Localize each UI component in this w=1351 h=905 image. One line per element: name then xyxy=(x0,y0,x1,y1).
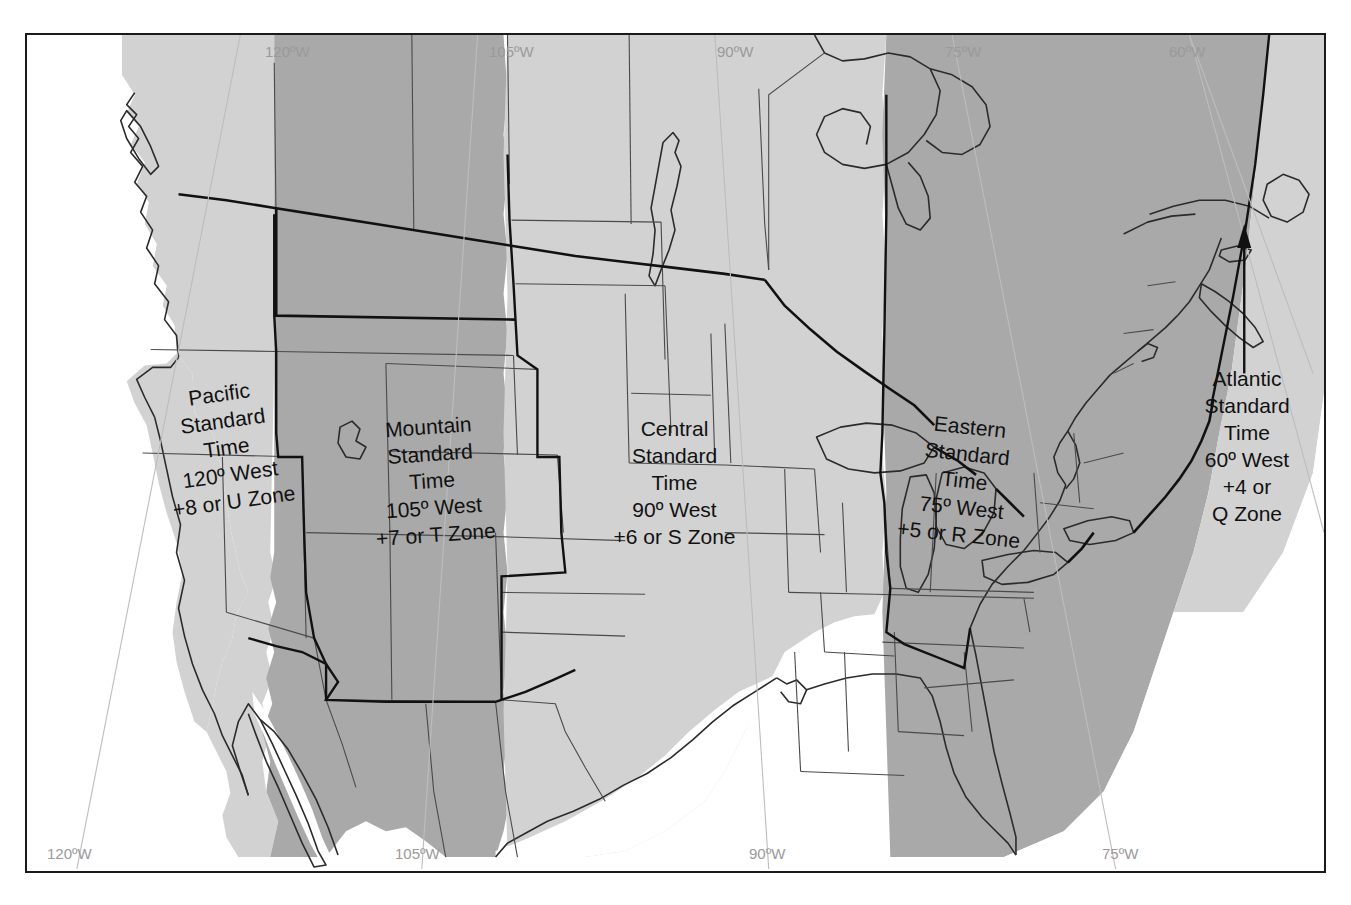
map-frame: Pacific Standard Time 120º West +8 or U … xyxy=(25,33,1326,873)
meridian-label-top-60w: 60ºW xyxy=(1169,43,1205,60)
meridian-label-top-105w: 105ºW xyxy=(489,43,534,60)
meridian-label-top-90w: 90ºW xyxy=(717,43,753,60)
north-america-map xyxy=(27,35,1324,871)
timezone-map-page: Pacific Standard Time 120º West +8 or U … xyxy=(0,0,1351,905)
meridian-label-top-75w: 75ºW xyxy=(945,43,981,60)
zone-mountain-land xyxy=(262,35,509,857)
meridian-label-bottom-120w: 120ºW xyxy=(47,845,92,862)
meridian-label-bottom-75w: 75ºW xyxy=(1102,845,1138,862)
meridian-label-bottom-105w: 105ºW xyxy=(395,845,440,862)
meridian-label-bottom-90w: 90ºW xyxy=(749,845,785,862)
meridian-label-top-120w: 120ºW xyxy=(265,43,310,60)
